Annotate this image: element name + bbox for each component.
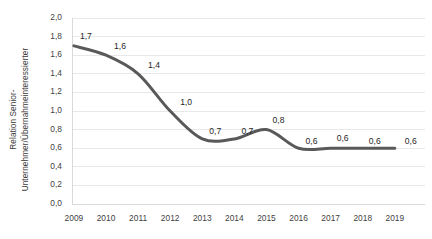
line-chart: Relation Senior- Unternehmer/Übernahmein…: [0, 0, 432, 239]
data-label-2019: 0,6: [405, 137, 417, 146]
data-label-2011: 1,4: [148, 61, 160, 70]
data-label-2014: 0,7: [241, 127, 253, 136]
data-point-labels: 1,71,61,41,00,70,70,80,60,60,60,6: [0, 0, 432, 239]
data-label-2013: 0,7: [209, 127, 221, 136]
data-label-2015: 0,8: [272, 116, 284, 125]
data-label-2017: 0,6: [337, 134, 349, 143]
data-label-2016: 0,6: [306, 137, 318, 146]
data-label-2010: 1,6: [114, 42, 126, 51]
data-label-2009: 1,7: [80, 32, 92, 41]
data-label-2012: 1,0: [180, 98, 192, 107]
data-label-2018: 0,6: [369, 137, 381, 146]
